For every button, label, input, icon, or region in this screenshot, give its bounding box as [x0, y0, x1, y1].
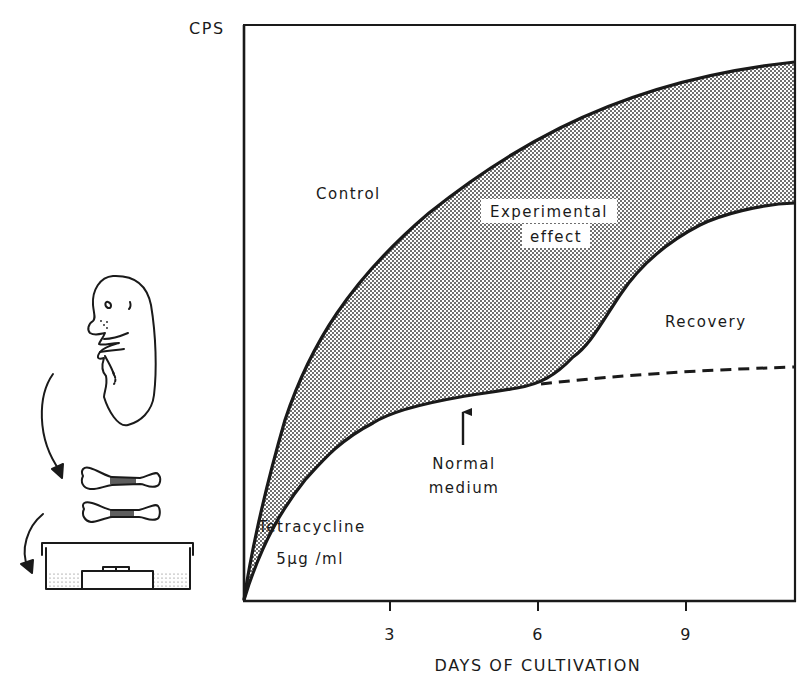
- x-tick-label-9: 9: [680, 625, 692, 644]
- experimental-effect-label-line1: Experimental: [490, 203, 608, 221]
- arrowhead-1: [52, 464, 63, 478]
- experimental-effect-label-line2: effect: [530, 228, 582, 246]
- procedure-illustration: [21, 276, 193, 589]
- x-axis-label: DAYS OF CULTIVATION: [435, 656, 642, 675]
- curved-arrow-icon-1: [42, 374, 60, 471]
- tetracycline-dose-label: 5µg /ml: [276, 550, 344, 568]
- y-axis-label: CPS: [189, 19, 225, 38]
- recovery-label: Recovery: [665, 313, 747, 331]
- arrowhead-2: [21, 560, 33, 573]
- culture-dish-icon: [42, 543, 193, 589]
- normal-medium-label-line1: Normal: [432, 455, 495, 473]
- normal-medium-label-line2: medium: [429, 479, 500, 497]
- figure: CPS 3 6 9 DAYS OF CULTIVATION Control Ex…: [0, 0, 810, 687]
- tetracycline-label-line1: Tetracycline: [257, 518, 366, 536]
- control-label: Control: [316, 185, 381, 203]
- embryo-icon: [88, 276, 155, 425]
- continued-tetracycline-dashed-line: [541, 367, 795, 384]
- long-bone-icon-1: [82, 467, 160, 489]
- x-tick-label-3: 3: [384, 625, 396, 644]
- x-tick-label-6: 6: [532, 625, 544, 644]
- long-bone-icon-2: [83, 502, 160, 522]
